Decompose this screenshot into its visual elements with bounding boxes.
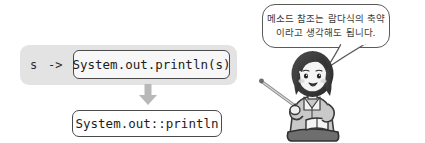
teacher-character-icon xyxy=(258,48,368,143)
lambda-body-box: System.out.println(s) xyxy=(73,50,230,79)
lambda-body-text: System.out.println(s) xyxy=(72,57,230,72)
diagram-root: s -> System.out.println(s) System.out::p… xyxy=(0,0,425,143)
lambda-parameter: s xyxy=(30,58,37,72)
method-reference-box: System.out::println xyxy=(72,110,222,137)
speech-line-1: 메소드 참조는 람다식의 축약 xyxy=(267,13,384,25)
method-reference-text: System.out::println xyxy=(76,116,219,131)
speech-line-2: 이라고 생각해도 됩니다. xyxy=(276,27,375,39)
down-arrow-icon xyxy=(138,84,158,105)
lambda-arrow-token: -> xyxy=(48,58,62,72)
speech-bubble: 메소드 참조는 람다식의 축약 이라고 생각해도 됩니다. xyxy=(262,4,390,48)
